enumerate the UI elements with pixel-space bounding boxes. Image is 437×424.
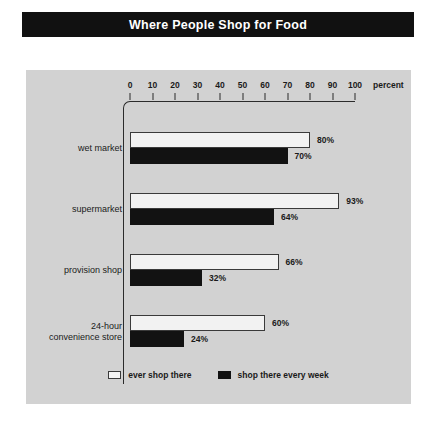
category-label-wrap: supermarket	[0, 193, 122, 227]
category-label: provision shop	[0, 265, 122, 277]
axis-corner	[123, 101, 131, 109]
bar-shop-every-week	[130, 148, 288, 164]
x-axis-tick-label: 60	[260, 80, 269, 90]
legend-item: shop there every week	[218, 370, 329, 380]
x-axis-line	[130, 101, 355, 102]
category-label: supermarket	[0, 204, 122, 216]
x-axis-tick-mark	[175, 93, 176, 100]
bar-ever-shop-there	[130, 254, 279, 270]
category-label-wrap: 24-hour convenience store	[0, 315, 122, 349]
bar-ever-shop-there	[130, 193, 339, 209]
bar-group: supermarket93%64%	[130, 193, 355, 227]
legend-label: ever shop there	[128, 370, 191, 380]
page-title: Where People Shop for Food	[129, 18, 307, 32]
legend-swatch-ever-shop-there	[108, 371, 121, 379]
x-axis-tick-mark	[332, 93, 333, 100]
x-axis-tick-mark	[130, 93, 131, 100]
x-axis-tick-label: 90	[328, 80, 337, 90]
legend-label: shop there every week	[238, 370, 329, 380]
bar-shop-every-week	[130, 209, 274, 225]
bar-value-label: 80%	[317, 135, 334, 145]
x-axis-tick-label: 50	[238, 80, 247, 90]
bar-value-label: 24%	[191, 334, 208, 344]
x-axis-unit-label: percent	[373, 80, 404, 90]
y-axis-baseline	[123, 108, 124, 384]
category-label-wrap: provision shop	[0, 254, 122, 288]
x-axis-tick-mark	[355, 93, 356, 100]
x-axis-tick-mark	[310, 93, 311, 100]
x-axis-tick-mark	[152, 93, 153, 100]
x-axis-tick-label: 40	[215, 80, 224, 90]
x-axis-tick-label: 20	[170, 80, 179, 90]
chart-panel: 0102030405060708090100 percent wet marke…	[26, 70, 411, 404]
bar-group: wet market80%70%	[130, 132, 355, 166]
bar-shop-every-week	[130, 270, 202, 286]
x-axis-tick-mark	[197, 93, 198, 100]
bar-value-label: 70%	[295, 151, 312, 161]
bar-value-label: 60%	[272, 318, 289, 328]
x-axis-tick-mark	[220, 93, 221, 100]
x-axis-tick-label: 70	[283, 80, 292, 90]
chart-title-bar: Where People Shop for Food	[22, 12, 414, 37]
x-axis-tick-label: 80	[305, 80, 314, 90]
chart-legend: ever shop thereshop there every week	[26, 370, 411, 380]
plot-area: 0102030405060708090100 percent wet marke…	[130, 70, 355, 404]
legend-item: ever shop there	[108, 370, 191, 380]
x-axis-tick-mark	[287, 93, 288, 100]
x-axis-tick-label: 10	[148, 80, 157, 90]
x-axis-tick-mark	[242, 93, 243, 100]
category-label-wrap: wet market	[0, 132, 122, 166]
bar-ever-shop-there	[130, 315, 265, 331]
bar-group: 24-hour convenience store60%24%	[130, 315, 355, 349]
bar-value-label: 93%	[346, 196, 363, 206]
bar-value-label: 64%	[281, 212, 298, 222]
bar-shop-every-week	[130, 331, 184, 347]
x-axis-tick-label: 100	[348, 80, 362, 90]
bar-ever-shop-there	[130, 132, 310, 148]
x-axis-tick-label: 30	[193, 80, 202, 90]
bar-value-label: 66%	[286, 257, 303, 267]
bar-group: provision shop66%32%	[130, 254, 355, 288]
x-axis-tick-mark	[265, 93, 266, 100]
category-label: 24-hour convenience store	[0, 321, 122, 344]
legend-swatch-shop-every-week	[218, 371, 231, 379]
bar-value-label: 32%	[209, 273, 226, 283]
x-axis-tick-label: 0	[128, 80, 133, 90]
category-label: wet market	[0, 143, 122, 155]
